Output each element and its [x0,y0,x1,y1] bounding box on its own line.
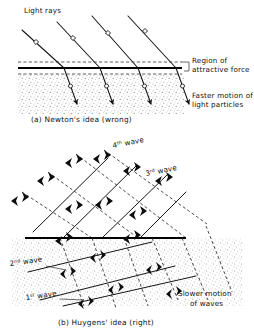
panel-b-caption: (b) Huygens' idea (right) [58,318,154,327]
label-slower-line1: Slower motion [178,289,232,298]
panel-a-incident-rays [22,16,176,68]
label-faster-line1: Faster motion of [192,91,253,100]
panel-b-huygens: 4th wave 3rd wave 2nd wave 1st wave Slow… [9,135,242,327]
leader-region [182,62,189,71]
open-circle-marker [69,84,73,88]
panel-a-incident-markers [33,28,147,44]
label-wave-3: 3rd wave [145,163,178,178]
label-region-line2: attractive force [192,65,250,74]
panel-a-dense-medium [18,74,184,114]
label-region-line1: Region of [192,56,227,65]
open-circle-marker [181,84,185,88]
svg-text:3rd wave: 3rd wave [145,163,178,178]
label-faster-line2: light particles [192,100,243,109]
label-wave-4: 4th wave [112,135,145,150]
open-circle-marker [105,84,109,88]
wave3-word: wave [157,163,178,176]
huygens-newton-refraction-figure: Light rays Region of attractive force Fa… [0,0,254,332]
open-square-marker [70,35,75,40]
panel-b-rays-upper [22,150,207,238]
label-slower-line2: of waves [190,299,223,308]
panel-a-caption: (a) Newton's idea (wrong) [31,115,132,124]
wave4-word: wave [124,135,145,148]
label-light-rays: Light rays [24,6,61,15]
svg-text:4th wave: 4th wave [112,135,145,150]
open-circle-marker [143,84,147,88]
panel-a-newton: Light rays Region of attractive force Fa… [18,6,253,124]
open-square-marker [105,30,110,35]
